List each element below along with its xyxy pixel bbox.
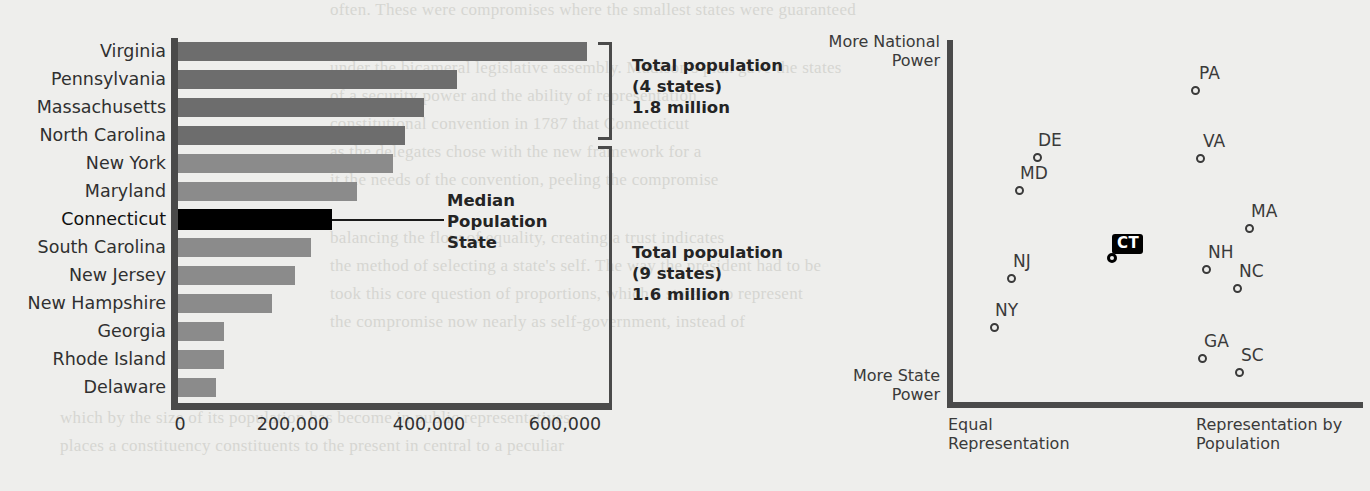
bar-chart-x-axis xyxy=(171,403,612,410)
scatter-point-va xyxy=(1196,154,1205,163)
bar-virginia xyxy=(178,42,587,61)
bar-category-label: New York xyxy=(4,153,166,173)
bar-category-label: Massachusetts xyxy=(4,97,166,117)
scatter-x-axis-left-label: Equal Representation xyxy=(948,416,1098,454)
bar-maryland xyxy=(178,182,357,201)
scatter-point-ny xyxy=(990,323,999,332)
scatter-label-nc: NC xyxy=(1239,261,1264,281)
x-tick-label: 0 xyxy=(174,414,185,434)
bracket-top-group xyxy=(598,42,612,140)
scatter-label-md: MD xyxy=(1020,163,1048,183)
scatter-point-ma xyxy=(1245,224,1254,233)
bar-category-label: Georgia xyxy=(4,321,166,341)
scatter-x-axis xyxy=(947,402,1363,408)
scatter-point-ct xyxy=(1107,253,1117,263)
scatter-point-nh xyxy=(1202,265,1211,274)
median-leader-line xyxy=(332,219,444,221)
scatter-label-nj: NJ xyxy=(1013,251,1031,271)
scatter-label-sc: SC xyxy=(1241,345,1264,365)
scatter-x-axis-right-label: Representation by Population xyxy=(1196,416,1366,454)
bottom-group-callout-text: Total population (9 states) 1.6 million xyxy=(632,242,783,305)
scatter-point-nj xyxy=(1007,274,1016,283)
scatter-label-nh: NH xyxy=(1208,242,1234,262)
scatter-label-ny: NY xyxy=(995,300,1018,320)
x-tick-label: 600,000 xyxy=(529,414,601,434)
bar-georgia xyxy=(178,322,224,341)
bar-category-label: New Jersey xyxy=(4,265,166,285)
bar-delaware xyxy=(178,378,216,397)
bar-new-jersey xyxy=(178,266,295,285)
bar-chart-y-axis xyxy=(171,38,178,410)
bracket-cap-bottom xyxy=(598,137,612,140)
bar-connecticut xyxy=(178,209,332,230)
scatter-point-sc xyxy=(1235,368,1244,377)
population-bar-chart: Virginia Pennsylvania Massachusetts Nort… xyxy=(0,0,830,491)
bar-category-label: Pennsylvania xyxy=(4,69,166,89)
scatter-label-de: DE xyxy=(1038,130,1062,150)
bar-massachusetts xyxy=(178,98,424,117)
bar-rhode-island xyxy=(178,350,224,369)
bracket-cap-top xyxy=(598,42,612,45)
bracket-spine xyxy=(609,42,612,140)
bar-category-label: Rhode Island xyxy=(4,349,166,369)
bracket-bottom-group xyxy=(598,146,612,410)
scatter-y-axis-bottom-label: More State Power xyxy=(812,367,940,405)
bracket-cap-top xyxy=(598,146,612,149)
scatter-y-axis-top-label: More National Power xyxy=(812,33,940,71)
scatter-y-axis xyxy=(947,40,953,408)
bar-new-hampshire xyxy=(178,294,272,313)
bar-north-carolina xyxy=(178,126,405,145)
scatter-label-va: VA xyxy=(1203,131,1225,151)
scatter-point-nc xyxy=(1233,284,1242,293)
scatter-point-md xyxy=(1015,186,1024,195)
scatter-label-ga: GA xyxy=(1204,331,1229,351)
bar-category-label: North Carolina xyxy=(4,125,166,145)
scatter-point-ga xyxy=(1198,354,1207,363)
bracket-spine xyxy=(609,146,612,410)
top-group-callout-text: Total population (4 states) 1.8 million xyxy=(632,55,783,118)
bar-category-label-connecticut: Connecticut xyxy=(4,209,166,229)
bar-category-label: New Hampshire xyxy=(4,293,166,313)
bar-new-york xyxy=(178,154,393,173)
scatter-point-pa xyxy=(1191,86,1200,95)
representation-power-scatter: More National Power More State Power Equ… xyxy=(830,0,1370,491)
bar-category-label: Virginia xyxy=(4,41,166,61)
bar-category-label: Maryland xyxy=(4,181,166,201)
bar-category-label: South Carolina xyxy=(4,237,166,257)
scatter-point-de xyxy=(1033,153,1042,162)
x-tick-label: 400,000 xyxy=(393,414,465,434)
median-callout-text: Median Population State xyxy=(447,190,547,253)
bar-pennsylvania xyxy=(178,70,457,89)
bar-south-carolina xyxy=(178,238,311,257)
scatter-label-pa: PA xyxy=(1199,63,1220,83)
bar-category-label: Delaware xyxy=(4,377,166,397)
scatter-label-ct: CT xyxy=(1112,234,1143,254)
scatter-label-ma: MA xyxy=(1251,201,1277,221)
x-tick-label: 200,000 xyxy=(257,414,329,434)
bracket-cap-bottom xyxy=(598,407,612,410)
